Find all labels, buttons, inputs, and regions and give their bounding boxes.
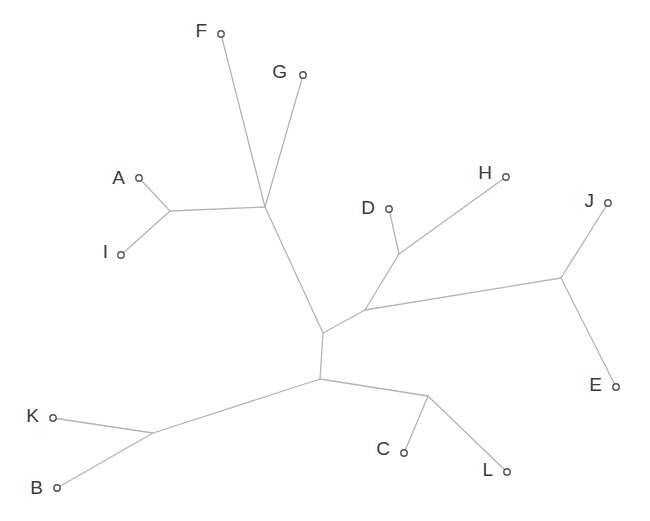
leaf-label-i: I [103, 241, 108, 262]
leaf-node-marker-d[interactable] [386, 206, 392, 212]
phylogenetic-tree-figure: ABCDEFGHIJKL [0, 0, 650, 521]
leaf-node-marker-c[interactable] [401, 450, 407, 456]
tree-branch-n_DH-n_right [365, 254, 399, 310]
leaf-label-h: H [478, 162, 492, 183]
leaf-label-a: A [112, 167, 125, 188]
leaf-node-marker-f[interactable] [218, 31, 224, 37]
tree-branch-n_FG-n_upper [265, 207, 323, 333]
tree-branch-A-n_AI [139, 178, 170, 211]
tree-branch-n_right-n_JE [365, 278, 561, 310]
leaf-label-c: C [376, 438, 390, 459]
leaf-label-e: E [589, 374, 602, 395]
tree-branch-n_upper-n_lower [320, 333, 323, 379]
leaf-label-d: D [361, 197, 375, 218]
leaf-node-marker-a[interactable] [136, 175, 142, 181]
tree-branch-F-n_FG [221, 34, 265, 207]
tree-branch-I-n_AI [121, 211, 170, 255]
leaf-node-marker-h[interactable] [503, 174, 509, 180]
leaf-node-marker-b[interactable] [54, 485, 60, 491]
tree-branch-D-n_DH [389, 209, 399, 254]
tree-branch-n_lower-n_KB [153, 379, 320, 433]
leaf-label-f: F [195, 20, 207, 41]
tree-branch-n_AI-n_FG [170, 207, 265, 211]
leaf-label-l: L [482, 459, 493, 480]
leaf-node-marker-e[interactable] [613, 384, 619, 390]
leaf-node-marker-g[interactable] [300, 72, 306, 78]
leaf-node-marker-k[interactable] [50, 415, 56, 421]
tree-branch-B-n_KB [57, 433, 153, 488]
tree-branch-E-n_JE [561, 278, 616, 387]
leaf-label-g: G [272, 61, 287, 82]
tree-branch-n_lower-n_CL [320, 379, 428, 396]
tree-branch-K-n_KB [53, 418, 153, 433]
tree-branch-n_right-n_upper [323, 310, 365, 333]
tree-branch-G-n_FG [265, 75, 303, 207]
tree-branch-L-n_CL [428, 396, 507, 472]
leaf-label-k: K [26, 405, 39, 426]
branch-group [53, 34, 616, 488]
tree-branch-H-n_DH [399, 177, 506, 254]
leaf-node-marker-i[interactable] [118, 252, 124, 258]
leaf-node-marker-j[interactable] [605, 200, 611, 206]
tree-branch-J-n_JE [561, 203, 608, 278]
leaf-node-marker-l[interactable] [504, 469, 510, 475]
tree-canvas: ABCDEFGHIJKL [0, 0, 650, 521]
leaf-label-b: B [30, 477, 43, 498]
leaf-marker-group [50, 31, 619, 491]
tree-branch-C-n_CL [404, 396, 428, 453]
leaf-label-j: J [585, 190, 595, 211]
